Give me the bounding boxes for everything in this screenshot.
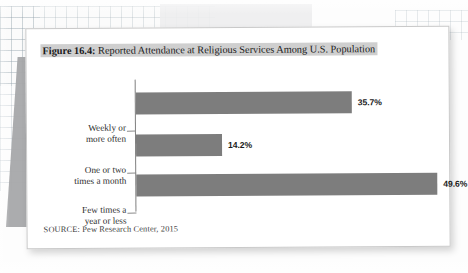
bar-chart-plot: Weekly or more often One or two times a … bbox=[27, 75, 452, 218]
figure-number-label: Figure 16.4: bbox=[42, 45, 95, 56]
figure-source: SOURCE: Pew Research Center, 2015 bbox=[44, 224, 179, 234]
figure-title-text: Figure 16.4: Reported Attendance at Reli… bbox=[40, 42, 377, 57]
axis-tick-one-or-two bbox=[127, 173, 136, 174]
bar-value-one-or-two: 14.2% bbox=[228, 140, 252, 150]
category-label-one-or-two: One or two times a month bbox=[27, 165, 126, 166]
axis-tick-few-times bbox=[127, 213, 136, 214]
category-label-weekly-line1: Weekly or bbox=[34, 123, 126, 134]
category-label-one-or-two-line2: times a month bbox=[34, 176, 126, 187]
category-label-few-times: Few times a year or less bbox=[27, 205, 126, 206]
background-light-band bbox=[160, 4, 312, 28]
figure-title-body: Reported Attendance at Religious Service… bbox=[98, 43, 375, 56]
screenshot-stage: Figure 16.4: Reported Attendance at Reli… bbox=[0, 0, 468, 273]
bar-value-few-times: 49.6% bbox=[443, 179, 467, 189]
bar-one-or-two bbox=[136, 134, 222, 157]
category-label-few-times-line1: Few times a bbox=[34, 205, 126, 216]
bar-weekly bbox=[136, 91, 352, 114]
category-label-one-or-two-line1: One or two bbox=[34, 165, 126, 176]
bar-value-weekly: 35.7% bbox=[358, 97, 382, 107]
figure-card: Figure 16.4: Reported Attendance at Reli… bbox=[25, 26, 450, 250]
category-label-weekly: Weekly or more often bbox=[27, 123, 126, 124]
axis-tick-weekly bbox=[127, 131, 136, 132]
figure-title: Figure 16.4: Reported Attendance at Reli… bbox=[40, 38, 410, 59]
category-label-weekly-line2: more often bbox=[34, 134, 126, 145]
bar-few-times bbox=[136, 173, 437, 197]
